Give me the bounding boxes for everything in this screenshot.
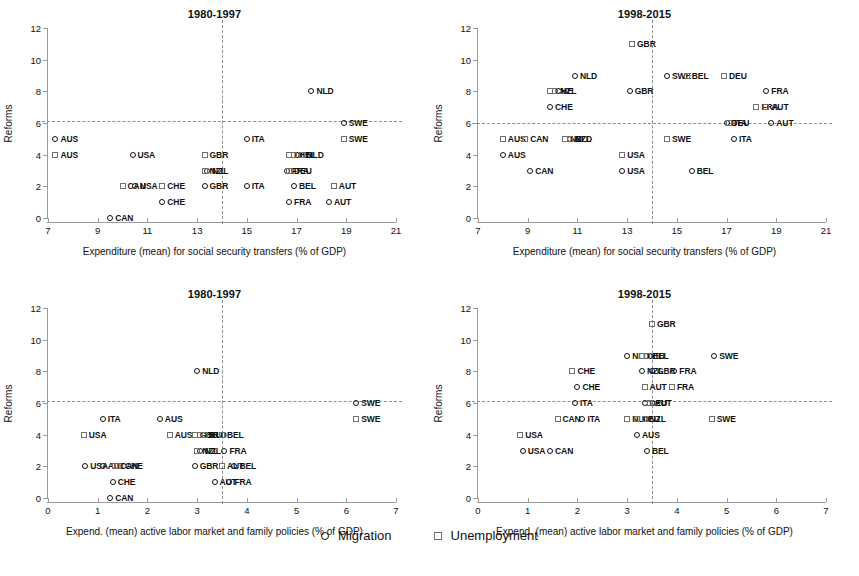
y-axis-tick bbox=[43, 28, 48, 29]
data-point-label: AUT bbox=[339, 181, 356, 191]
circle-marker-icon bbox=[500, 152, 506, 158]
square-marker-icon bbox=[81, 432, 87, 438]
y-axis-tick bbox=[43, 308, 48, 309]
data-point-label: CAN bbox=[563, 414, 581, 424]
legend-item-migration: Migration bbox=[321, 528, 391, 543]
x-axis-tick bbox=[826, 218, 827, 222]
data-point-label: FRA bbox=[229, 446, 246, 456]
legend-item-unemployment: Unemployment bbox=[434, 528, 538, 543]
y-axis-tick bbox=[43, 371, 48, 372]
x-axis-tick bbox=[677, 218, 678, 222]
x-axis-tick-label: 19 bbox=[771, 225, 782, 236]
vertical-reference-line bbox=[222, 20, 223, 224]
x-axis-tick bbox=[147, 498, 148, 502]
x-axis-tick-label: 4 bbox=[674, 505, 679, 516]
circle-marker-icon bbox=[520, 448, 526, 454]
x-axis-tick-label: 0 bbox=[45, 505, 50, 516]
circle-marker-icon bbox=[326, 199, 332, 205]
y-axis-tick bbox=[43, 155, 48, 156]
data-point-label: ITA bbox=[108, 414, 121, 424]
data-point-label: SWE bbox=[719, 351, 738, 361]
y-axis-tick-label: 4 bbox=[466, 429, 471, 440]
x-axis-label: Expenditure (mean) for social security t… bbox=[0, 246, 429, 257]
panel-bottom-left: 1980-1997 Reforms 02468101201234567NLDSW… bbox=[0, 280, 429, 548]
data-point-label: USA bbox=[627, 166, 645, 176]
circle-marker-icon bbox=[221, 448, 227, 454]
data-point-label: AUS bbox=[175, 430, 193, 440]
data-point-label: NLD bbox=[580, 71, 597, 81]
data-point-label: CAN bbox=[530, 134, 548, 144]
y-axis-tick bbox=[43, 340, 48, 341]
square-marker-icon bbox=[619, 152, 625, 158]
plot-area: 02468101201234567NLDSWEITAAUSNZLFRAGBRBE… bbox=[48, 308, 396, 498]
square-marker-icon bbox=[120, 183, 126, 189]
x-axis-tick bbox=[346, 218, 347, 222]
data-point-label: CAN bbox=[120, 461, 138, 471]
circle-marker-icon bbox=[100, 463, 106, 469]
circle-marker-icon bbox=[244, 136, 250, 142]
data-point-label: AUS bbox=[60, 134, 78, 144]
y-axis-tick bbox=[43, 466, 48, 467]
x-axis-tick bbox=[528, 498, 529, 502]
y-axis-tick-label: 4 bbox=[466, 149, 471, 160]
data-point-label: GBR bbox=[200, 461, 219, 471]
x-axis-tick bbox=[396, 498, 397, 502]
data-point-label: CAN bbox=[115, 493, 133, 503]
square-marker-icon bbox=[500, 136, 506, 142]
data-point-label: AUT bbox=[771, 102, 788, 112]
circle-marker-icon bbox=[110, 479, 116, 485]
x-axis-tick-label: 7 bbox=[393, 505, 398, 516]
data-point-label: ITA bbox=[587, 414, 600, 424]
data-point-label: CHE bbox=[167, 181, 185, 191]
circle-marker-icon bbox=[244, 183, 250, 189]
circle-marker-icon bbox=[572, 400, 578, 406]
circle-marker-icon bbox=[353, 400, 359, 406]
square-marker-icon bbox=[202, 152, 208, 158]
data-point-label: NLD bbox=[316, 86, 333, 96]
x-axis-tick-label: 5 bbox=[724, 505, 729, 516]
y-axis-tick-label: 10 bbox=[30, 334, 41, 345]
y-axis-tick-label: 6 bbox=[36, 398, 41, 409]
square-marker-icon bbox=[434, 532, 442, 540]
square-marker-icon bbox=[624, 416, 630, 422]
x-axis-tick bbox=[478, 218, 479, 222]
y-axis-tick-label: 8 bbox=[36, 86, 41, 97]
data-point-label: NZL bbox=[210, 166, 226, 176]
x-axis-tick-label: 15 bbox=[672, 225, 683, 236]
y-axis-tick-label: 12 bbox=[460, 303, 471, 314]
circle-marker-icon bbox=[212, 479, 218, 485]
data-point-label: CHE bbox=[118, 477, 136, 487]
data-point-label: USA bbox=[138, 150, 156, 160]
circle-marker-icon bbox=[226, 479, 232, 485]
circle-marker-icon bbox=[82, 463, 88, 469]
circle-marker-icon bbox=[202, 183, 208, 189]
x-axis-tick bbox=[247, 498, 248, 502]
y-axis-tick-label: 0 bbox=[36, 493, 41, 504]
data-point-label: USA bbox=[525, 430, 543, 440]
x-axis-tick-label: 21 bbox=[391, 225, 402, 236]
data-point-label: DEU bbox=[294, 166, 312, 176]
data-point-label: CHE bbox=[577, 366, 595, 376]
data-point-label: CHE bbox=[555, 102, 573, 112]
data-point-label: FRA bbox=[294, 197, 311, 207]
x-axis-tick-label: 7 bbox=[823, 505, 828, 516]
x-axis-tick-label: 4 bbox=[244, 505, 249, 516]
square-marker-icon bbox=[219, 432, 225, 438]
square-marker-icon bbox=[647, 400, 653, 406]
square-marker-icon bbox=[726, 120, 732, 126]
square-marker-icon bbox=[167, 432, 173, 438]
data-point-label: SWE bbox=[361, 398, 380, 408]
panel-title: 1980-1997 bbox=[0, 8, 429, 20]
data-point-label: SWE bbox=[361, 414, 380, 424]
circle-marker-icon bbox=[634, 432, 640, 438]
square-marker-icon bbox=[194, 448, 200, 454]
data-point-label: NLD bbox=[575, 134, 592, 144]
plot-area: 02468101279111315171921NLDSWEGBRCHEFRADE… bbox=[478, 28, 826, 218]
x-axis-tick-label: 19 bbox=[341, 225, 352, 236]
y-axis-tick-label: 10 bbox=[460, 334, 471, 345]
data-point-label: BEL bbox=[652, 351, 669, 361]
y-axis-tick-label: 2 bbox=[36, 461, 41, 472]
square-marker-icon bbox=[763, 104, 769, 110]
plot-area: 02468101201234567NLDSWENZLFRACHEITADEUIT… bbox=[478, 308, 826, 498]
y-axis-tick bbox=[473, 403, 478, 404]
